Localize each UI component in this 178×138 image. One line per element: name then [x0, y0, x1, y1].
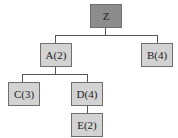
- edge-to-c: [22, 74, 23, 82]
- edge-a-horizontal: [22, 74, 88, 75]
- node-z: Z: [90, 4, 122, 28]
- node-b: B(4): [141, 43, 173, 67]
- edge-to-d: [87, 74, 88, 82]
- node-e: E(2): [71, 113, 103, 137]
- edge-z-down: [105, 27, 106, 35]
- node-a: A(2): [40, 43, 72, 67]
- edge-d-e: [87, 105, 88, 113]
- edge-z-horizontal: [55, 35, 158, 36]
- node-d: D(4): [71, 82, 103, 106]
- edge-to-a: [55, 35, 56, 43]
- edge-a-down: [55, 66, 56, 74]
- node-c: C(3): [8, 82, 40, 106]
- edge-to-b: [157, 35, 158, 43]
